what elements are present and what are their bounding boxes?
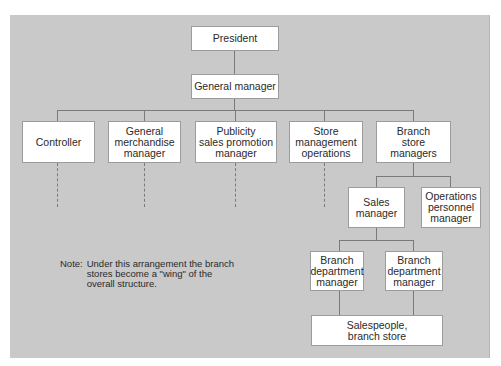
- node-store-management-operations: Store management operations: [289, 121, 363, 163]
- node-branch-department-manager-1: Branch department manager: [310, 251, 364, 291]
- connector-branch-bar: [376, 176, 451, 177]
- node-operations-personnel-manager: Operations personnel manager: [421, 187, 481, 228]
- chart-background: [10, 15, 490, 358]
- note-label: Note:: [60, 259, 83, 289]
- note-text: Under this arrangement the branch stores…: [87, 259, 234, 289]
- connector-sales-bar: [339, 240, 414, 241]
- dashed-line-publicity: [235, 163, 236, 207]
- node-controller: Controller: [22, 121, 95, 163]
- node-president: President: [191, 26, 279, 51]
- connector-publicity: [235, 110, 236, 121]
- connector-branch: [413, 110, 414, 121]
- dashed-line-gmm: [144, 163, 145, 207]
- node-branch-store-managers: Branch store managers: [376, 121, 451, 163]
- node-salespeople-branch-store: Salespeople, branch store: [311, 315, 443, 346]
- connector-gmm: [144, 110, 145, 121]
- connector-dept1-salespeople: [339, 291, 340, 315]
- node-general-merchandise-manager: General merchandise manager: [108, 121, 181, 163]
- dashed-line-store-mgmt: [324, 163, 325, 207]
- node-sales-manager: Sales manager: [348, 187, 405, 228]
- connector-dept1: [339, 240, 340, 251]
- node-publicity-sales-promotion-manager: Publicity sales promotion manager: [195, 121, 277, 163]
- connector-branch-down: [413, 163, 414, 176]
- connector-president-gm: [234, 50, 235, 74]
- connector-dept2-salespeople: [413, 291, 414, 315]
- connector-sales-down: [376, 228, 377, 240]
- connector-controller: [57, 110, 58, 121]
- node-general-manager: General manager: [191, 74, 279, 99]
- connector-ops-mgr: [450, 176, 451, 187]
- connector-store-mgmt: [324, 110, 325, 121]
- connector-dept2: [413, 240, 414, 251]
- connector-gm-down: [234, 98, 235, 110]
- dashed-line-controller: [57, 163, 58, 207]
- node-branch-department-manager-2: Branch department manager: [385, 251, 443, 291]
- note: Note: Under this arrangement the branch …: [60, 259, 234, 289]
- connector-sales-mgr: [376, 176, 377, 187]
